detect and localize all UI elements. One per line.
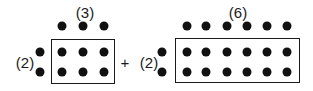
array-dot: [202, 48, 211, 57]
array-dot: [79, 68, 88, 77]
array-dot: [243, 48, 252, 57]
array-dot: [223, 68, 232, 77]
array-dot: [202, 68, 211, 77]
column-marker-dot: [79, 22, 88, 31]
column-count-label: (6): [229, 5, 247, 20]
array-dot: [100, 68, 109, 77]
row-marker-dot: [158, 68, 167, 77]
array-dot: [283, 48, 292, 57]
column-marker-dot: [263, 22, 272, 31]
array-dot: [58, 68, 67, 77]
array-dot: [58, 48, 67, 57]
row-marker-dot: [36, 48, 45, 57]
column-count-label: (3): [76, 5, 94, 20]
column-marker-dot: [58, 22, 67, 31]
plus-operator: +: [121, 55, 130, 70]
column-marker-dot: [183, 22, 192, 31]
column-marker-dot: [202, 22, 211, 31]
array-dot: [243, 68, 252, 77]
column-marker-dot: [223, 22, 232, 31]
column-marker-dot: [243, 22, 252, 31]
array-dot: [223, 48, 232, 57]
row-marker-dot: [36, 68, 45, 77]
array-dot: [263, 68, 272, 77]
row-count-label: (2): [140, 55, 158, 70]
array-dot: [263, 48, 272, 57]
array-dot: [100, 48, 109, 57]
column-marker-dot: [283, 22, 292, 31]
array-dot: [283, 68, 292, 77]
array-rectangle: [175, 38, 300, 83]
dot-array-diagram: (3)(2)(6)(2)+: [0, 0, 313, 91]
array-dot: [183, 48, 192, 57]
column-marker-dot: [100, 22, 109, 31]
row-count-label: (2): [16, 55, 34, 70]
array-rectangle: [51, 39, 115, 84]
array-dot: [183, 68, 192, 77]
row-marker-dot: [158, 48, 167, 57]
array-dot: [79, 48, 88, 57]
